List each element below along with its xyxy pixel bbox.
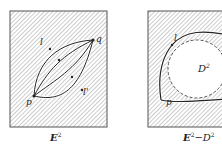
caption-e2-base: E [50, 132, 58, 143]
caption-e2-minus-d2: E2−D2 [183, 131, 215, 143]
label-q: q [96, 34, 102, 44]
label-l-prime: l' [83, 87, 88, 97]
caption-base: E [183, 132, 191, 143]
caption-e2: E2 [50, 131, 61, 143]
point-q [91, 38, 94, 41]
label-l: l [40, 37, 43, 47]
caption-minus-d: −D [194, 132, 210, 143]
caption-e2-exponent: 2 [58, 131, 62, 138]
arrowhead [171, 44, 173, 46]
figure-canvas [0, 0, 222, 152]
disk-exponent: 2 [206, 62, 210, 69]
label-l-right: l [174, 33, 177, 43]
label-p: p [26, 97, 32, 107]
label-disk: D2 [198, 62, 210, 74]
plane-region [10, 11, 107, 127]
panel-e2-minus-d2 [148, 11, 222, 127]
panel-e2 [10, 11, 107, 127]
point-p [32, 94, 35, 97]
label-p-right: p [166, 97, 172, 107]
disk-letter: D [198, 63, 206, 74]
caption-d-exponent: 2 [211, 131, 215, 138]
